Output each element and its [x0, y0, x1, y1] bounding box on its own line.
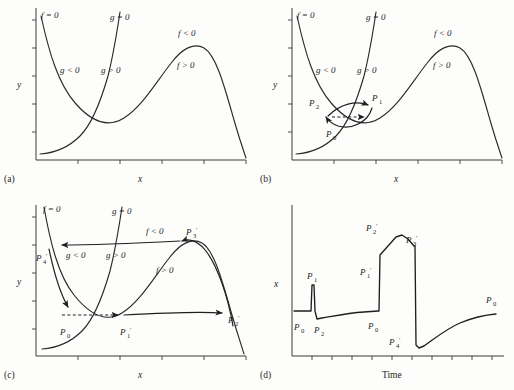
f-positive-label: f > 0 [156, 265, 174, 275]
point-P0: P 0 [59, 327, 70, 339]
panel-a: f = 0 g = 0 g < 0 g > 0 f < 0 f > 0 y x … [0, 0, 258, 195]
svg-text:P: P [306, 271, 313, 281]
g-negative-label: g < 0 [66, 250, 86, 260]
panel-c-label: (c) [4, 370, 15, 381]
svg-text:P: P [371, 93, 378, 103]
g-negative-label: g < 0 [60, 65, 80, 75]
panel-b-x-axis-label: x [393, 174, 399, 184]
g-positive-label: g > 0 [357, 65, 377, 75]
point-P2-dip: P 2 [313, 325, 324, 337]
f-nullcline-label: f = 0 [41, 10, 59, 20]
panel-b: P 2 P 1 P 0 f = 0 g = 0 g < 0 g > 0 f < … [256, 0, 514, 195]
panel-d-label: (d) [260, 370, 271, 381]
svg-text:′: ′ [196, 226, 198, 233]
panel-a-y-axis-label: y [16, 80, 22, 90]
panel-d: P 0 P 1 P 2 P 0 P 1 ′ P 2 [256, 193, 514, 390]
svg-text:3: 3 [413, 240, 416, 247]
svg-text:1: 1 [367, 272, 370, 279]
subthreshold-trajectory-upper [328, 103, 368, 116]
svg-text:P: P [325, 129, 332, 139]
g-positive-label: g > 0 [106, 250, 126, 260]
g-nullcline-curve [42, 207, 122, 349]
cycle-P1-to-P2-segment [124, 312, 222, 315]
svg-text:0: 0 [375, 326, 378, 333]
svg-text:′: ′ [46, 252, 48, 259]
panel-d-x-axis-label: Time [382, 370, 402, 380]
svg-text:P: P [35, 253, 42, 263]
figure-root: f = 0 g = 0 g < 0 g > 0 f < 0 f > 0 y x … [0, 0, 514, 390]
svg-text:P: P [313, 325, 320, 335]
svg-text:2: 2 [316, 103, 319, 110]
point-P4-prime: P 4 ′ [35, 252, 48, 265]
f-positive-label: f > 0 [433, 60, 451, 70]
svg-text:4: 4 [396, 342, 400, 349]
point-P0-mid: P 0 [367, 321, 378, 333]
point-P1-prime: P 1 ′ [119, 326, 132, 339]
g-nullcline-curve [296, 12, 376, 154]
point-P4-prime: P 4 ′ [388, 336, 401, 349]
svg-text:′: ′ [416, 234, 418, 241]
svg-text:1: 1 [127, 332, 130, 339]
svg-text:P: P [293, 322, 300, 332]
g-nullcline-label: g = 0 [110, 12, 130, 22]
svg-text:1: 1 [379, 98, 382, 105]
svg-text:2: 2 [373, 228, 376, 235]
svg-text:′: ′ [376, 222, 378, 229]
panel-a-x-axis-label: x [137, 174, 143, 184]
svg-text:P: P [119, 327, 126, 337]
panel-b-label: (b) [260, 174, 271, 185]
cycle-P3-to-P4-segment [62, 241, 180, 245]
svg-text:P: P [388, 337, 395, 347]
time-series-curve [294, 235, 496, 348]
point-P0-start: P 0 [293, 322, 304, 334]
point-P2: P 2 [308, 98, 319, 110]
point-P1: P 1 [371, 93, 382, 105]
svg-text:2: 2 [321, 330, 324, 337]
point-P1-prime: P 1 ′ [359, 266, 372, 279]
svg-text:P: P [405, 235, 412, 245]
f-nullcline-curve [41, 16, 246, 158]
svg-text:0: 0 [301, 327, 304, 334]
f-positive-label: f > 0 [177, 60, 195, 70]
g-positive-label: g > 0 [101, 65, 121, 75]
svg-text:4: 4 [43, 258, 47, 265]
svg-text:2: 2 [235, 320, 238, 327]
panel-d-y-axis-label: x [273, 279, 279, 289]
svg-text:P: P [365, 223, 372, 233]
svg-text:′: ′ [130, 326, 132, 333]
g-nullcline-label: g = 0 [112, 206, 132, 216]
f-negative-label: f < 0 [178, 28, 196, 38]
g-nullcline-curve [40, 12, 120, 154]
f-negative-label: f < 0 [434, 28, 452, 38]
point-P0: P 0 [325, 129, 336, 141]
panel-a-label: (a) [4, 174, 15, 185]
point-P3-prime: P 3 ′ [405, 234, 418, 247]
panel-c-x-axis-label: x [137, 370, 143, 380]
f-nullcline-label: f = 0 [297, 10, 315, 20]
svg-text:0: 0 [493, 300, 496, 307]
f-nullcline-label: f = 0 [43, 204, 61, 214]
cycle-P2-to-P3-branch [182, 240, 233, 326]
f-negative-label: f < 0 [146, 226, 164, 236]
svg-text:′: ′ [370, 266, 372, 273]
g-nullcline-label: g = 0 [366, 12, 386, 22]
svg-text:P: P [308, 98, 315, 108]
g-negative-label: g < 0 [316, 65, 336, 75]
svg-text:0: 0 [67, 332, 70, 339]
point-P1-spike: P 1 [306, 271, 317, 283]
point-P3-prime: P 3 ′ [185, 226, 198, 239]
point-P2-prime: P 2 ′ [365, 222, 378, 235]
svg-text:0: 0 [333, 134, 336, 141]
panel-c: P 4 ′ P 3 ′ P 2 ′ P 1 ′ P 0 [0, 193, 258, 390]
svg-text:3: 3 [193, 232, 196, 239]
svg-text:P: P [367, 321, 374, 331]
point-P0-end: P 0 [485, 295, 496, 307]
svg-text:P: P [185, 227, 192, 237]
f-nullcline-curve [44, 207, 244, 354]
svg-text:1: 1 [314, 276, 317, 283]
svg-text:′: ′ [399, 336, 401, 343]
svg-text:P: P [227, 315, 234, 325]
svg-text:P: P [59, 327, 66, 337]
svg-text:P: P [485, 295, 492, 305]
panel-c-y-axis-label: y [16, 277, 22, 287]
